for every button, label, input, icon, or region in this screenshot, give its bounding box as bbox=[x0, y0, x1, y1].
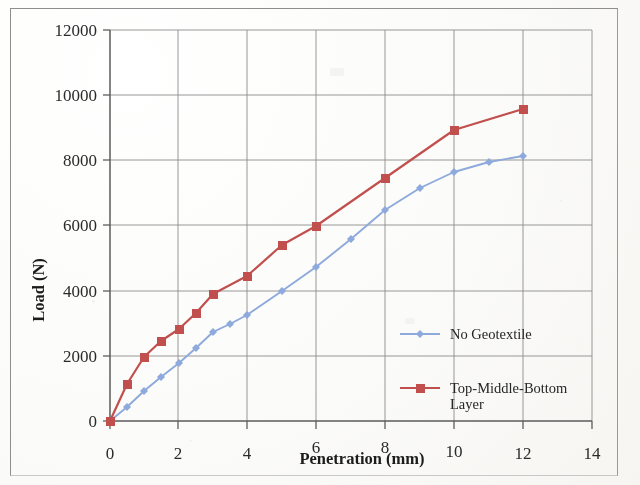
y-tick-label: 2000 bbox=[63, 347, 97, 366]
y-axis-tick-labels: 12000 10000 8000 6000 4000 2000 0 bbox=[55, 21, 98, 431]
y-tick-label: 10000 bbox=[55, 86, 98, 105]
x-tick-label: 0 bbox=[106, 444, 115, 463]
legend-label: No Geotextile bbox=[450, 326, 532, 342]
legend-item-no-geotextile: No Geotextile bbox=[400, 326, 532, 342]
y-axis-ticks bbox=[103, 30, 110, 421]
legend: No Geotextile Top-Middle-Bottom Layer bbox=[400, 326, 568, 412]
y-axis-title: Load (N) bbox=[29, 258, 48, 322]
x-axis-ticks bbox=[110, 421, 592, 429]
x-axis-title: Penetration (mm) bbox=[299, 449, 424, 468]
chart-canvas: 12000 10000 8000 6000 4000 2000 0 0 2 4 … bbox=[0, 0, 640, 485]
x-tick-label: 2 bbox=[174, 444, 183, 463]
x-tick-label: 12 bbox=[515, 444, 532, 463]
y-tick-label: 4000 bbox=[63, 282, 97, 301]
y-tick-label: 6000 bbox=[63, 216, 97, 235]
legend-label: Top-Middle-Bottom bbox=[450, 380, 568, 396]
legend-label-line2: Layer bbox=[450, 396, 484, 412]
scanned-figure-page: 12000 10000 8000 6000 4000 2000 0 0 2 4 … bbox=[0, 0, 640, 485]
legend-item-top-middle-bottom-layer: Top-Middle-Bottom Layer bbox=[400, 380, 568, 412]
y-tick-label: 0 bbox=[89, 412, 98, 431]
y-tick-label: 12000 bbox=[55, 21, 98, 40]
x-tick-label: 14 bbox=[584, 444, 602, 463]
y-tick-label: 8000 bbox=[63, 151, 97, 170]
x-tick-label: 4 bbox=[243, 444, 252, 463]
x-tick-label: 10 bbox=[446, 442, 463, 461]
